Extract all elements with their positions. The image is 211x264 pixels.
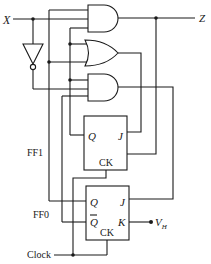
ff0-q-pin-label: Q [90,196,98,208]
output-z-label: Z [199,12,206,24]
vh-label: VH [155,216,168,231]
ff1-label: FF1 [27,147,43,158]
clock-label: Clock [27,249,51,260]
ff0-qbar-pin-label: Q [90,216,98,228]
circuit-diagram: X Z Q J CK FF1 [0,0,211,264]
and-gate-1 [88,5,118,32]
ff0-ck-pin-label: CK [100,227,115,238]
flipflop-ff1: Q J CK [84,116,127,170]
inverter-bubble [30,64,35,69]
ff0-label: FF0 [33,209,49,220]
flipflop-ff0: Q Q J K CK [86,186,129,240]
ff0-k-pin-label: K [117,216,126,228]
input-x-label: X [2,13,11,27]
junction-vh [149,220,153,224]
ff1-q-pin-label: Q [88,130,96,142]
or-gate [85,40,118,66]
ff1-ck-pin-label: CK [99,157,114,168]
and-gate-2 [88,74,118,101]
inverter-gate [23,44,43,70]
